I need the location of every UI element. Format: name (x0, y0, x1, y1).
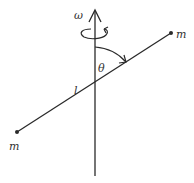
mass-top-point (169, 31, 173, 35)
rod (17, 33, 171, 132)
mass-top-label: m (176, 28, 186, 41)
diagram-canvas: ω θ l m m (0, 0, 194, 183)
theta-arc (95, 47, 126, 62)
mass-bottom-label: m (9, 140, 19, 153)
omega-label: ω (74, 9, 83, 22)
length-label: l (74, 84, 78, 97)
mass-bottom-point (15, 130, 19, 134)
theta-label: θ (98, 62, 105, 75)
